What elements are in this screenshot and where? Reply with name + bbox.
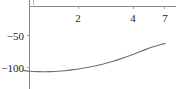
y-tick-label-1: −100	[0, 63, 24, 74]
x-tick-label-1: 4	[130, 13, 136, 24]
plot-canvas	[0, 0, 176, 89]
x-tick-label-2: 7	[162, 13, 168, 24]
plot-figure: 2 4 7 −50 −100	[0, 0, 176, 89]
axes-group	[29, 0, 176, 89]
y-tick-label-0: −50	[0, 31, 24, 42]
data-curve-line	[24, 43, 166, 71]
x-tick-label-0: 2	[75, 13, 81, 24]
tick-marks-group	[27, 0, 165, 68]
